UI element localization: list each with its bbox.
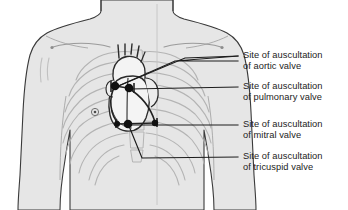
great-vessel-branch-3 (131, 44, 132, 54)
thorax-diagram (0, 0, 348, 210)
left-acromion (50, 46, 53, 49)
marker-aortic-site[interactable] (111, 82, 120, 91)
callout-tricuspid-line2: of tricuspid valve (243, 162, 323, 173)
callout-aortic-line2: of aortic valve (243, 61, 323, 72)
callout-label-pulmonary[interactable]: Site of auscultation of pulmonary valve (243, 81, 323, 102)
auscultation-sites-figure: Site of auscultation of aortic valve Sit… (0, 0, 348, 210)
callout-pulmonary-line2: of pulmonary valve (243, 92, 323, 103)
great-vessel-branch-1 (118, 45, 119, 58)
marker-mitral-site[interactable] (124, 120, 133, 129)
callout-pulmonary-line1: Site of auscultation (243, 81, 323, 92)
callout-label-aortic[interactable]: Site of auscultation of aortic valve (243, 50, 323, 71)
callout-tricuspid-line1: Site of auscultation (243, 151, 323, 162)
marker-lower-left-site[interactable] (114, 121, 120, 127)
right-acromion (220, 46, 223, 49)
callout-mitral-line2: of mitral valve (243, 130, 323, 141)
callout-label-tricuspid[interactable]: Site of auscultation of tricuspid valve (243, 151, 323, 172)
callout-mitral-line1: Site of auscultation (243, 119, 323, 130)
callout-label-mitral[interactable]: Site of auscultation of mitral valve (243, 119, 323, 140)
marker-tricuspid-site[interactable] (152, 120, 158, 126)
marker-pulmonary-site[interactable] (125, 84, 134, 93)
callout-aortic-line1: Site of auscultation (243, 50, 323, 61)
